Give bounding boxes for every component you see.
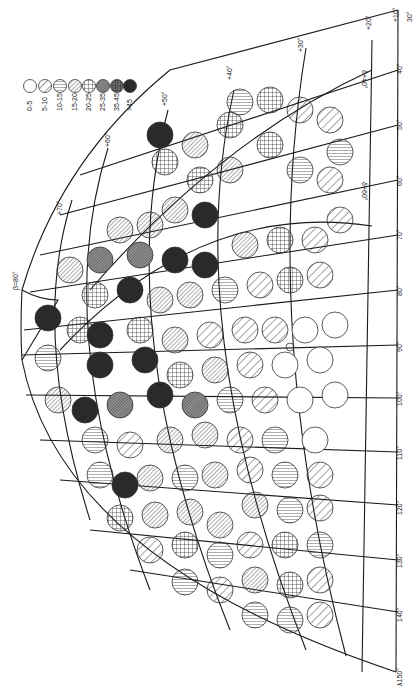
svg-text:40°: 40° xyxy=(396,63,403,74)
svg-text:δ+40°: δ+40° xyxy=(361,70,368,89)
legend-item-15-20: 15-20 xyxy=(69,80,82,112)
legend: 0-5 5-10 10-15 15-20 20-25 25-35 35-45 xyxy=(24,80,137,112)
svg-text:+20°: +20° xyxy=(365,15,372,30)
svg-text:λ150°: λ150° xyxy=(396,668,403,686)
svg-text:140°: 140° xyxy=(396,607,403,622)
legend-item-10-15: 10-15 xyxy=(54,80,67,112)
legend-item-35-45: 35-45 xyxy=(111,80,124,112)
svg-text:35-45: 35-45 xyxy=(113,93,120,111)
svg-text:+10°: +10° xyxy=(392,7,399,22)
svg-text:+60°: +60° xyxy=(104,132,111,147)
svg-text:+30°: +30° xyxy=(297,37,304,52)
svg-text:60°: 60° xyxy=(396,175,403,186)
legend-item-25-35: 25-35 xyxy=(97,80,110,112)
legend-item-0-5: 0-5 xyxy=(24,80,37,112)
svg-text:50°: 50° xyxy=(396,119,403,130)
svg-text:+50°: +50° xyxy=(161,91,168,106)
longitude-labels: 30° 40° 50° 60° 70° 80° 90° 100° 110° 12… xyxy=(396,11,413,686)
svg-text:5-10: 5-10 xyxy=(41,97,48,111)
svg-text:110°: 110° xyxy=(396,446,403,460)
sky-map-figure: 0-5 5-10 10-15 15-20 20-25 25-35 35-45 xyxy=(0,0,417,688)
svg-text:20-25: 20-25 xyxy=(85,93,92,111)
legend-item-20-25: 20-25 xyxy=(83,80,96,112)
declination-labels: δ+40° δ+60° xyxy=(361,70,368,201)
svg-text:80°: 80° xyxy=(396,285,403,296)
svg-text:90°: 90° xyxy=(396,341,403,352)
svg-text:70°: 70° xyxy=(396,229,403,240)
svg-text:0-5: 0-5 xyxy=(26,101,33,111)
svg-text:+70°: +70° xyxy=(56,200,63,215)
legend-item-5-10: 5-10 xyxy=(39,80,52,112)
svg-text:10-15: 10-15 xyxy=(56,93,63,111)
svg-text:β=80°: β=80° xyxy=(12,271,20,290)
svg-text:120°: 120° xyxy=(396,500,403,515)
svg-text:25-35: 25-35 xyxy=(99,93,106,111)
svg-text:15-20: 15-20 xyxy=(71,93,78,111)
svg-text:+40°: +40° xyxy=(226,65,233,80)
svg-text:130°: 130° xyxy=(396,553,403,568)
svg-text:30°: 30° xyxy=(406,11,413,22)
svg-text:δ+60°: δ+60° xyxy=(361,182,368,201)
svg-text:100°: 100° xyxy=(396,391,403,406)
